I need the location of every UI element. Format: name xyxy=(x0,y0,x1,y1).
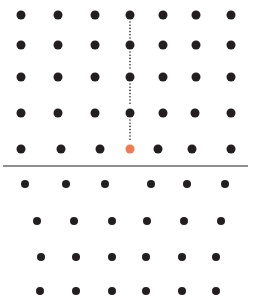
atom xyxy=(101,180,109,188)
half-plane-dot xyxy=(129,90,131,92)
half-plane-dot xyxy=(129,64,131,66)
atom xyxy=(62,180,70,188)
atom xyxy=(17,73,26,82)
half-plane-dot xyxy=(129,37,131,39)
atom xyxy=(54,11,63,20)
atom xyxy=(180,217,188,225)
half-plane-dot xyxy=(129,58,131,60)
atom xyxy=(212,287,220,295)
atom xyxy=(91,73,100,82)
atom xyxy=(126,11,135,20)
half-plane-dot xyxy=(129,119,131,121)
half-plane-dot xyxy=(129,99,131,101)
atom xyxy=(108,287,116,295)
half-plane-dot xyxy=(129,67,131,69)
half-plane-dot xyxy=(129,126,131,128)
lower-lattice-atoms xyxy=(21,180,229,295)
half-plane-dot xyxy=(129,96,131,98)
atom xyxy=(192,73,201,82)
half-plane-dot xyxy=(129,122,131,124)
atom xyxy=(159,41,168,50)
atom xyxy=(33,217,41,225)
atom xyxy=(70,217,78,225)
atom xyxy=(91,109,100,118)
atom xyxy=(108,217,116,225)
atom xyxy=(227,41,236,50)
half-plane-dot xyxy=(129,129,131,131)
half-plane-dot xyxy=(129,34,131,36)
atom xyxy=(96,145,105,154)
atom xyxy=(183,180,191,188)
atom xyxy=(159,73,168,82)
atom xyxy=(227,73,236,82)
atom xyxy=(72,253,80,261)
atom xyxy=(17,11,26,20)
atom xyxy=(57,145,66,154)
atom xyxy=(36,287,44,295)
atom xyxy=(37,253,45,261)
atom xyxy=(227,145,236,154)
atom xyxy=(17,109,26,118)
atom xyxy=(54,41,63,50)
atom xyxy=(142,253,150,261)
dislocation-core-atom xyxy=(126,145,135,154)
atom xyxy=(108,253,116,261)
half-plane-dot xyxy=(129,51,131,53)
half-plane-dot xyxy=(129,135,131,137)
atom xyxy=(21,180,29,188)
atom xyxy=(142,287,150,295)
atom xyxy=(159,11,168,20)
atom xyxy=(91,11,100,20)
atom xyxy=(192,41,201,50)
atom xyxy=(126,41,135,50)
atom xyxy=(192,11,201,20)
atom xyxy=(54,109,63,118)
atom xyxy=(212,253,220,261)
atom xyxy=(143,217,151,225)
half-plane-dot xyxy=(129,24,131,26)
atom xyxy=(54,73,63,82)
half-plane-dot xyxy=(129,61,131,63)
lattice-svg xyxy=(0,0,254,304)
half-plane-dot xyxy=(129,28,131,30)
atom xyxy=(217,217,225,225)
atom xyxy=(178,253,186,261)
atom xyxy=(91,41,100,50)
atom xyxy=(178,287,186,295)
atom xyxy=(221,180,229,188)
half-plane-dot xyxy=(129,93,131,95)
half-plane-dot xyxy=(129,132,131,134)
half-plane-dot xyxy=(129,102,131,104)
atom xyxy=(126,109,135,118)
atom xyxy=(154,145,163,154)
half-plane-dot xyxy=(129,86,131,88)
atom xyxy=(72,287,80,295)
atom xyxy=(227,11,236,20)
atom xyxy=(17,145,26,154)
edge-dislocation-diagram xyxy=(0,0,254,304)
half-plane-dot xyxy=(129,83,131,85)
half-plane-dot xyxy=(129,54,131,56)
half-plane-dot xyxy=(129,21,131,23)
atom xyxy=(17,41,26,50)
atom xyxy=(159,109,168,118)
atom xyxy=(188,145,197,154)
atom xyxy=(126,73,135,82)
half-plane-dot xyxy=(129,31,131,33)
half-plane-dot xyxy=(129,138,131,140)
atom xyxy=(191,109,200,118)
atom xyxy=(227,109,236,118)
upper-lattice-atoms xyxy=(17,11,236,154)
atom xyxy=(147,180,155,188)
